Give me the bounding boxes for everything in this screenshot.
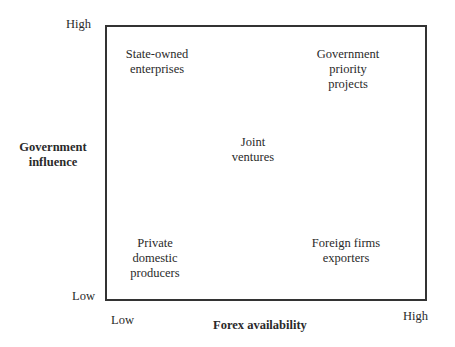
y-axis-title-line-1: Government (8, 140, 98, 155)
quadrant-bottom-left: Private domestic producers (130, 236, 179, 281)
quadrant-label-line: Private (130, 236, 179, 251)
y-axis-title-line-2: influence (8, 155, 98, 170)
quadrant-label-line: Joint (232, 135, 274, 150)
quadrant-top-left: State-owned enterprises (126, 47, 188, 77)
y-axis-high-label: High (66, 17, 91, 32)
quadrant-center: Joint ventures (232, 135, 274, 165)
quadrant-label-line: priority (317, 62, 379, 77)
quadrant-label-line: State-owned (126, 47, 188, 62)
quadrant-label-line: exporters (312, 251, 380, 266)
y-axis-low-label: Low (72, 289, 95, 304)
quadrant-label-line: Government (317, 47, 379, 62)
quadrant-bottom-right: Foreign firms exporters (312, 236, 380, 266)
quadrant-top-right: Government priority projects (317, 47, 379, 92)
quadrant-label-line: producers (130, 266, 179, 281)
y-axis-title: Government influence (8, 140, 98, 170)
x-axis-low-label: Low (111, 313, 134, 328)
x-axis-title: Forex availability (213, 318, 307, 333)
quadrant-label-line: Foreign firms (312, 236, 380, 251)
quadrant-label-line: enterprises (126, 62, 188, 77)
x-axis-high-label: High (403, 309, 428, 324)
quadrant-label-line: ventures (232, 150, 274, 165)
quadrant-label-line: domestic (130, 251, 179, 266)
quadrant-label-line: projects (317, 77, 379, 92)
